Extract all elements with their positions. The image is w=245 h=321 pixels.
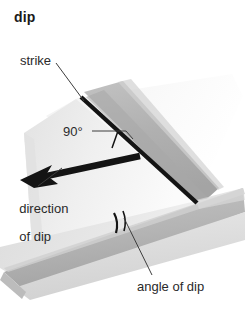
label-strike: strike: [20, 54, 51, 68]
strike-dip-block-diagram: [0, 0, 245, 321]
label-direction-of-dip-line1: direction: [19, 201, 68, 216]
leader-line-strike: [56, 63, 84, 101]
figure-title: dip: [14, 10, 35, 24]
label-direction-of-dip-line2: of dip: [19, 229, 51, 244]
label-ninety-degrees: 90°: [63, 125, 83, 139]
label-direction-of-dip: direction of dip: [12, 188, 68, 244]
label-angle-of-dip: angle of dip: [137, 280, 204, 294]
